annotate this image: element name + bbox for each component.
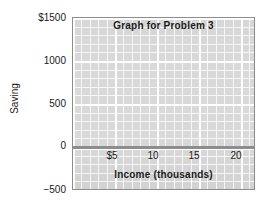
graph-figure: Graph for Problem 3 $1500 1000 500 0 −50… [0, 0, 268, 205]
y-tick-label-1000: 1000 [6, 55, 66, 66]
y-tick-label-1500: $1500 [6, 12, 66, 23]
zero-axis-line [73, 146, 254, 149]
chart-title: Graph for Problem 3 [72, 20, 255, 31]
grid-shading [73, 18, 254, 189]
x-tick-label-20: 20 [216, 150, 256, 161]
y-axis-title: Saving [9, 69, 20, 129]
plot-area [72, 17, 255, 190]
x-tick-label-5: $5 [92, 150, 132, 161]
y-tick-label-0: 0 [6, 140, 66, 151]
y-tick-label-minus500: −500 [6, 184, 66, 195]
major-gridlines [73, 18, 254, 189]
x-tick-label-15: 15 [174, 150, 214, 161]
x-tick-label-10: 10 [133, 150, 173, 161]
x-axis-title: Income (thousands) [72, 169, 255, 180]
minor-gridlines [73, 18, 254, 189]
